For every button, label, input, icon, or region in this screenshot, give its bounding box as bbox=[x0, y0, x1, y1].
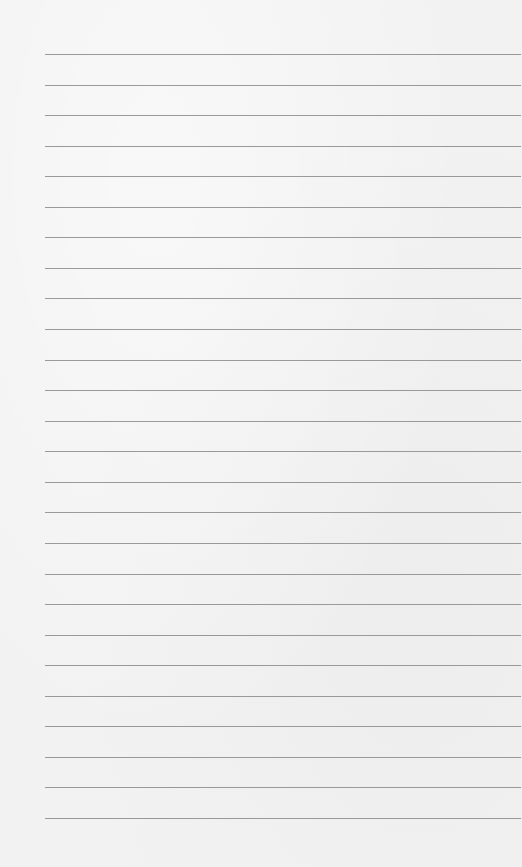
ruled-line bbox=[45, 85, 521, 86]
ruled-line bbox=[45, 665, 521, 666]
ruled-line bbox=[45, 451, 521, 452]
ruled-line bbox=[45, 146, 521, 147]
ruled-line bbox=[45, 176, 521, 177]
lined-paper-sheet bbox=[0, 0, 522, 867]
ruled-line bbox=[45, 298, 521, 299]
ruled-line bbox=[45, 390, 521, 391]
ruled-line bbox=[45, 512, 521, 513]
ruled-line bbox=[45, 787, 521, 788]
ruled-line bbox=[45, 54, 521, 55]
ruled-line bbox=[45, 726, 521, 727]
ruled-line bbox=[45, 207, 521, 208]
ruled-line bbox=[45, 421, 521, 422]
ruled-line bbox=[45, 696, 521, 697]
ruled-line bbox=[45, 604, 521, 605]
ruled-line bbox=[45, 635, 521, 636]
ruled-line bbox=[45, 268, 521, 269]
ruled-line bbox=[45, 543, 521, 544]
ruled-line bbox=[45, 482, 521, 483]
ruled-line bbox=[45, 757, 521, 758]
ruled-line bbox=[45, 329, 521, 330]
ruled-line bbox=[45, 574, 521, 575]
ruled-line bbox=[45, 818, 521, 819]
ruled-line bbox=[45, 360, 521, 361]
ruled-line bbox=[45, 237, 521, 238]
ruled-line bbox=[45, 115, 521, 116]
